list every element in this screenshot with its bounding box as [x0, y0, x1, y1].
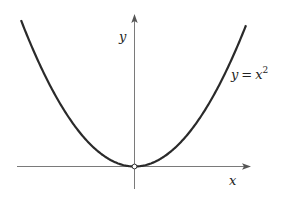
origin-open-circle-icon [132, 164, 137, 169]
x-axis-label: x [229, 174, 236, 187]
plot-area [0, 0, 283, 199]
curve-equation-label: y=x2 [231, 66, 268, 81]
parabola-curve [21, 20, 246, 166]
equation-equals: = [238, 67, 255, 82]
y-axis-label: y [119, 30, 126, 43]
equation-exponent: 2 [263, 65, 269, 75]
equation-rhs: x [255, 67, 262, 82]
